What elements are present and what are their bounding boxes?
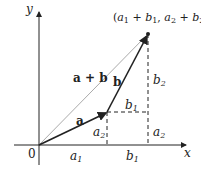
a2-right-label: a2 — [153, 126, 165, 140]
vector-a-label: a — [76, 115, 84, 127]
endpoint-dot — [146, 32, 150, 36]
sum-vector-label: a + b — [73, 72, 108, 84]
vector-addition-diagram: y x 0 (a1 + b1, a2 + b2) a + b b a b2 b1… — [0, 0, 201, 171]
endpoint-label: (a1 + b1, a2 + b2) — [113, 12, 201, 25]
x-axis-label: x — [184, 147, 191, 159]
b2-label: b2 — [153, 74, 166, 88]
a2-left-label: a2 — [93, 126, 105, 140]
vector-b-label: b — [113, 76, 121, 88]
diagram-canvas — [0, 0, 201, 171]
b1-bottom-label: b1 — [126, 150, 139, 164]
b1-mid-label: b1 — [125, 99, 138, 113]
y-axis-label: y — [26, 3, 33, 15]
origin-label: 0 — [28, 148, 36, 160]
a1-label: a1 — [70, 150, 82, 164]
